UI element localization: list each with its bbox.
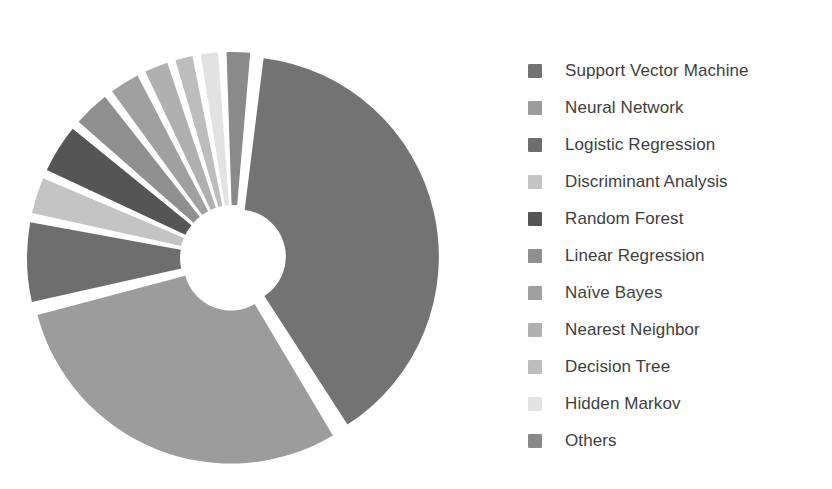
legend-swatch-icon [528,397,542,411]
legend-item[interactable]: Decision Tree [528,348,828,385]
legend-item[interactable]: Others [528,422,828,459]
pie-slice-group [27,52,439,464]
pie-chart-figure: Support Vector MachineNeural NetworkLogi… [0,0,832,489]
legend-item-label: Others [565,432,617,449]
legend-swatch-icon [528,249,542,263]
legend-item-label: Logistic Regression [565,136,715,153]
donut-chart-svg [0,0,500,489]
pie-slice[interactable] [227,52,251,205]
legend-item[interactable]: Linear Regression [528,237,828,274]
chart-legend: Support Vector MachineNeural NetworkLogi… [528,52,828,459]
legend-item[interactable]: Hidden Markov [528,385,828,422]
legend-item-label: Naïve Bayes [565,284,662,301]
legend-swatch-icon [528,434,542,448]
legend-item-label: Support Vector Machine [565,62,749,79]
legend-item[interactable]: Discriminant Analysis [528,163,828,200]
legend-swatch-icon [528,360,542,374]
legend-swatch-icon [528,286,542,300]
legend-item-label: Random Forest [565,210,683,227]
donut-chart-area [0,0,500,489]
legend-item-label: Neural Network [565,99,684,116]
legend-swatch-icon [528,64,542,78]
legend-swatch-icon [528,212,542,226]
legend-item-label: Discriminant Analysis [565,173,728,190]
legend-item-label: Linear Regression [565,247,705,264]
legend-item[interactable]: Random Forest [528,200,828,237]
legend-swatch-icon [528,323,542,337]
legend-swatch-icon [528,138,542,152]
legend-swatch-icon [528,101,542,115]
legend-item[interactable]: Nearest Neighbor [528,311,828,348]
legend-item-label: Decision Tree [565,358,670,375]
legend-item-label: Hidden Markov [565,395,681,412]
legend-item[interactable]: Support Vector Machine [528,52,828,89]
legend-swatch-icon [528,175,542,189]
legend-item-label: Nearest Neighbor [565,321,700,338]
legend-item[interactable]: Neural Network [528,89,828,126]
legend-item[interactable]: Naïve Bayes [528,274,828,311]
legend-item[interactable]: Logistic Regression [528,126,828,163]
